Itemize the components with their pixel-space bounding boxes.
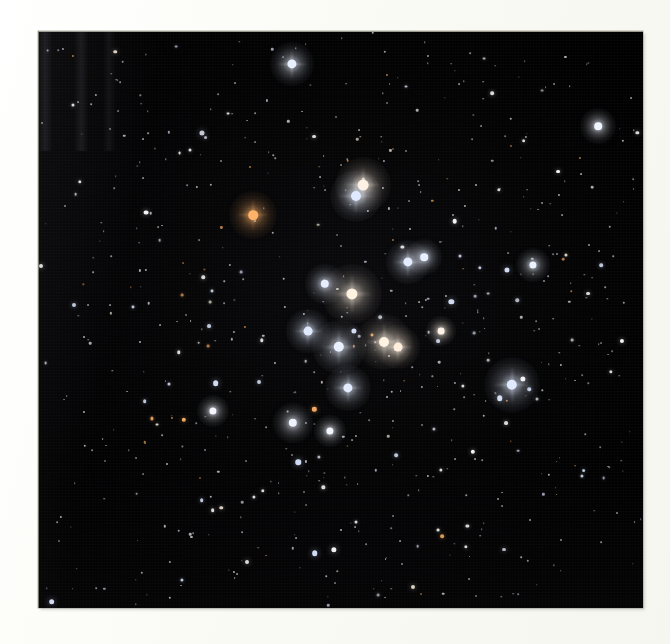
star-glow bbox=[330, 170, 382, 222]
field-star bbox=[130, 287, 131, 288]
field-star bbox=[541, 473, 543, 475]
field-star bbox=[149, 212, 152, 215]
field-star bbox=[121, 60, 124, 63]
field-star bbox=[306, 127, 307, 128]
field-star bbox=[112, 370, 113, 371]
field-star bbox=[600, 541, 602, 543]
field-star bbox=[354, 526, 356, 528]
field-star bbox=[95, 93, 97, 95]
field-star bbox=[384, 597, 386, 599]
field-star bbox=[463, 81, 464, 82]
field-star bbox=[556, 494, 558, 496]
star-diffraction-spike bbox=[338, 160, 388, 210]
field-star bbox=[458, 83, 460, 85]
field-star bbox=[559, 457, 561, 459]
star-glow bbox=[270, 42, 314, 86]
star-point bbox=[321, 280, 329, 288]
field-star bbox=[581, 374, 583, 376]
star-point bbox=[289, 419, 297, 427]
field-star bbox=[161, 225, 163, 227]
field-star bbox=[487, 359, 490, 362]
field-star bbox=[520, 157, 522, 159]
field-star bbox=[312, 407, 316, 411]
field-star bbox=[619, 128, 621, 130]
field-star bbox=[380, 136, 382, 138]
field-star bbox=[372, 32, 374, 34]
field-star bbox=[165, 159, 166, 160]
field-star bbox=[452, 219, 457, 224]
field-star bbox=[113, 50, 117, 54]
field-star bbox=[145, 268, 147, 270]
field-star bbox=[520, 316, 522, 318]
field-star bbox=[547, 275, 549, 277]
field-star bbox=[591, 318, 592, 319]
field-star bbox=[147, 110, 149, 112]
field-star bbox=[233, 331, 235, 333]
star-glow bbox=[406, 239, 442, 275]
field-star bbox=[391, 588, 393, 590]
field-star bbox=[41, 122, 43, 124]
field-star bbox=[353, 345, 355, 347]
field-star bbox=[373, 588, 374, 589]
star-point bbox=[209, 407, 216, 414]
field-star bbox=[234, 82, 236, 84]
field-star bbox=[473, 394, 475, 396]
field-star bbox=[132, 305, 135, 308]
field-star bbox=[411, 585, 415, 589]
field-star bbox=[139, 341, 141, 343]
field-star bbox=[392, 148, 394, 150]
star-diffraction-spike bbox=[359, 317, 409, 367]
field-star bbox=[502, 548, 506, 552]
field-star bbox=[274, 362, 276, 364]
field-star bbox=[346, 159, 347, 160]
field-star bbox=[346, 312, 348, 314]
star-glow bbox=[516, 248, 550, 282]
field-star bbox=[504, 421, 508, 425]
field-star bbox=[200, 130, 205, 135]
field-star bbox=[461, 384, 464, 387]
field-star bbox=[491, 159, 494, 162]
field-star bbox=[562, 258, 565, 261]
field-star bbox=[175, 45, 178, 48]
field-star bbox=[279, 256, 281, 258]
field-star bbox=[168, 561, 170, 563]
field-star bbox=[171, 415, 172, 416]
field-star bbox=[83, 411, 85, 413]
star-diffraction-spike bbox=[272, 44, 312, 84]
field-star bbox=[46, 49, 49, 52]
field-star bbox=[245, 460, 247, 462]
field-star bbox=[586, 64, 588, 66]
field-star bbox=[291, 454, 293, 456]
field-star bbox=[103, 230, 105, 232]
field-star bbox=[154, 148, 155, 149]
field-star bbox=[501, 492, 503, 494]
star-point bbox=[420, 253, 428, 261]
field-star bbox=[378, 315, 382, 319]
field-star bbox=[500, 596, 501, 597]
field-star bbox=[537, 209, 539, 211]
field-star bbox=[211, 508, 215, 512]
field-star bbox=[314, 423, 315, 424]
field-star bbox=[227, 112, 230, 115]
field-star bbox=[481, 459, 483, 461]
field-star bbox=[418, 490, 420, 492]
field-star bbox=[385, 253, 386, 254]
field-star bbox=[295, 459, 301, 465]
field-star bbox=[303, 313, 305, 315]
field-star bbox=[232, 414, 233, 415]
field-star bbox=[609, 226, 612, 229]
star-glow bbox=[312, 320, 366, 374]
field-star bbox=[345, 189, 347, 191]
field-star bbox=[254, 112, 256, 114]
field-star bbox=[599, 263, 603, 267]
star-glow bbox=[273, 403, 313, 443]
field-star bbox=[77, 101, 79, 103]
field-star bbox=[386, 74, 388, 76]
field-star bbox=[439, 468, 442, 471]
field-star bbox=[156, 423, 159, 426]
field-star bbox=[266, 99, 268, 101]
field-star bbox=[204, 449, 206, 451]
field-star bbox=[383, 51, 385, 53]
field-star bbox=[421, 386, 423, 388]
field-star bbox=[351, 439, 353, 441]
